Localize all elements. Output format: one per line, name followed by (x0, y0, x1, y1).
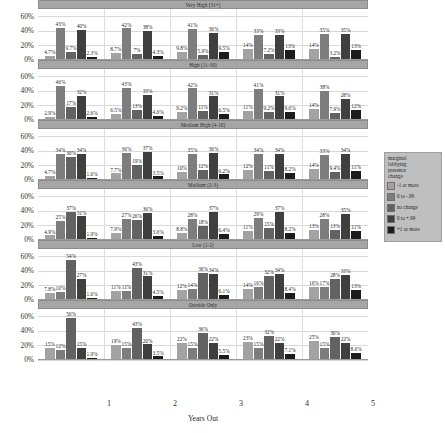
bar[interactable] (275, 96, 285, 119)
bar[interactable] (320, 34, 330, 60)
bar[interactable] (351, 50, 361, 59)
legend-item[interactable]: no change (387, 204, 439, 213)
bar[interactable] (219, 52, 229, 59)
bar[interactable] (45, 293, 55, 299)
bar[interactable] (188, 289, 198, 299)
legend-item[interactable]: 0 to +.99 (387, 215, 439, 224)
bar[interactable] (351, 171, 361, 179)
bar[interactable] (285, 233, 295, 239)
bar[interactable] (341, 154, 351, 179)
bar[interactable] (330, 230, 340, 239)
bar[interactable] (275, 212, 285, 239)
bar[interactable] (330, 57, 340, 59)
bar[interactable] (341, 275, 351, 299)
bar[interactable] (87, 178, 97, 179)
bar[interactable] (243, 170, 253, 179)
bar[interactable] (45, 348, 55, 359)
bar[interactable] (177, 52, 187, 59)
legend-item[interactable]: -1 or more (387, 182, 439, 191)
bar[interactable] (132, 110, 142, 119)
bar[interactable] (264, 228, 274, 239)
bar[interactable] (320, 287, 330, 299)
legend-item[interactable]: +1 or more (387, 226, 439, 235)
bar[interactable] (122, 291, 132, 299)
bar[interactable] (243, 111, 253, 119)
bar[interactable] (77, 96, 87, 119)
bar[interactable] (275, 154, 285, 179)
bar[interactable] (341, 34, 351, 60)
bar[interactable] (264, 276, 274, 299)
bar[interactable] (177, 343, 187, 359)
bar[interactable] (122, 88, 132, 119)
bar[interactable] (351, 110, 361, 119)
bar[interactable] (77, 30, 87, 59)
bar[interactable] (143, 95, 153, 119)
bar[interactable] (254, 218, 264, 239)
bar[interactable] (254, 287, 264, 299)
bar[interactable] (45, 56, 55, 59)
bar[interactable] (209, 153, 219, 179)
bar[interactable] (66, 260, 76, 299)
bar[interactable] (341, 99, 351, 119)
bar[interactable] (132, 165, 142, 179)
bar[interactable] (198, 273, 208, 299)
bar[interactable] (275, 274, 285, 299)
bar[interactable] (143, 276, 153, 299)
bar[interactable] (56, 86, 66, 120)
bar[interactable] (275, 35, 285, 59)
bar[interactable] (330, 337, 340, 359)
bar[interactable] (219, 114, 229, 119)
bar[interactable] (188, 219, 198, 239)
bar[interactable] (111, 114, 121, 119)
bar[interactable] (143, 31, 153, 59)
legend-item[interactable]: 0 to -.99 (387, 193, 439, 202)
bar[interactable] (56, 292, 66, 299)
bar[interactable] (209, 33, 219, 59)
bar[interactable] (177, 172, 187, 179)
bar[interactable] (111, 291, 121, 299)
bar[interactable] (254, 348, 264, 359)
bar[interactable] (188, 154, 198, 180)
bar[interactable] (309, 341, 319, 359)
bar[interactable] (153, 56, 163, 59)
bar[interactable] (87, 238, 97, 239)
bar[interactable] (320, 155, 330, 179)
bar[interactable] (177, 112, 187, 119)
bar[interactable] (45, 176, 55, 179)
bar[interactable] (153, 236, 163, 239)
bar[interactable] (143, 344, 153, 359)
bar[interactable] (66, 107, 76, 119)
bar[interactable] (153, 296, 163, 299)
bar[interactable] (341, 343, 351, 359)
bar[interactable] (45, 235, 55, 239)
bar[interactable] (122, 348, 132, 359)
bar[interactable] (188, 29, 198, 59)
bar[interactable] (351, 353, 361, 359)
bar[interactable] (56, 350, 66, 359)
bar[interactable] (153, 356, 163, 359)
bar[interactable] (198, 111, 208, 119)
bar[interactable] (188, 348, 198, 359)
bar[interactable] (87, 57, 97, 59)
bar[interactable] (122, 28, 132, 59)
bar[interactable] (285, 50, 295, 59)
bar[interactable] (188, 88, 198, 119)
bar[interactable] (254, 154, 264, 179)
bar[interactable] (330, 172, 340, 179)
bar[interactable] (320, 91, 330, 119)
bar[interactable] (209, 343, 219, 359)
bar[interactable] (132, 328, 142, 359)
bar[interactable] (219, 234, 229, 239)
bar[interactable] (320, 348, 330, 359)
bar[interactable] (66, 318, 76, 359)
bar[interactable] (77, 348, 87, 359)
bar[interactable] (77, 279, 87, 299)
bar[interactable] (264, 336, 274, 359)
bar[interactable] (341, 214, 351, 240)
bar[interactable] (285, 112, 295, 119)
bar[interactable] (87, 298, 97, 299)
bar[interactable] (264, 171, 274, 179)
bar[interactable] (77, 154, 87, 179)
bar[interactable] (56, 221, 66, 239)
bar[interactable] (351, 290, 361, 299)
